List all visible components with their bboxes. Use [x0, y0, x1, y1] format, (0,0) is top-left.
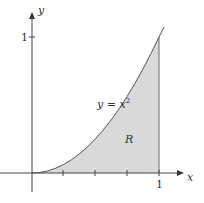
- y-axis-label: y: [38, 5, 44, 16]
- region-r: [32, 37, 159, 173]
- diagram: y x 1 1 y = x2 R: [0, 0, 204, 203]
- x-axis-label: x: [187, 172, 193, 183]
- curve-label: y = x2: [97, 98, 130, 110]
- y-axis-arrow-icon: [29, 12, 35, 19]
- y-tick-label: 1: [21, 32, 28, 43]
- region-label: R: [125, 134, 133, 145]
- x-axis-arrow-icon: [177, 170, 184, 176]
- x-tick-label: 1: [156, 179, 163, 190]
